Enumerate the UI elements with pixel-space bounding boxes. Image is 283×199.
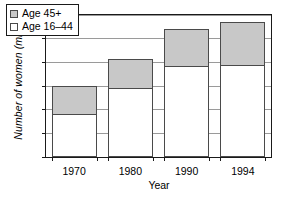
x-tick-label-1994: 1994 [213,165,273,177]
chart-figure: Number of women (millions) 0102030405060… [0,0,283,199]
x-tick-label-1980: 1980 [100,165,160,177]
bar-segment-age-45-plus-1990 [164,29,209,67]
x-tick-label-1970: 1970 [44,165,104,177]
x-tick-mark [164,157,165,161]
bar-segment-age-45-plus-1994 [220,22,265,66]
bar-1980 [108,15,153,157]
bar-segment-age-16-44-1980 [108,88,153,157]
x-axis-label: Year [45,179,273,191]
x-tick-mark [220,157,221,161]
x-tick-mark [52,157,53,161]
legend-label-age-45-plus: Age 45+ [22,8,61,19]
legend: Age 45+ Age 16–44 [6,4,79,36]
bar-segment-age-16-44-1970 [52,114,97,157]
bar-1970 [52,15,97,157]
legend-swatch-age-16-44 [10,23,18,31]
x-tick-label-1990: 1990 [157,165,217,177]
legend-swatch-age-45-plus [10,10,18,18]
legend-item-age-16-44: Age 16–44 [10,20,73,33]
bar-segment-age-45-plus-1980 [108,59,153,90]
legend-label-age-16-44: Age 16–44 [22,21,73,32]
bar-1994 [220,15,265,157]
legend-item-age-45-plus: Age 45+ [10,7,73,20]
x-tick-mark [209,157,210,161]
bar-segment-age-16-44-1990 [164,66,209,157]
bar-segment-age-16-44-1994 [220,65,265,157]
y-tick-mark [42,38,46,39]
y-tick-mark [42,86,46,87]
x-tick-mark [97,157,98,161]
x-tick-mark [108,157,109,161]
bar-segment-age-45-plus-1970 [52,86,97,115]
plot-area: 01020304050601970198019901994 [45,14,272,158]
y-tick-mark [42,133,46,134]
y-tick-mark [42,62,46,63]
y-tick-mark [42,109,46,110]
y-tick-mark [42,157,46,158]
x-tick-mark [153,157,154,161]
x-tick-mark [265,157,266,161]
bar-1990 [164,15,209,157]
